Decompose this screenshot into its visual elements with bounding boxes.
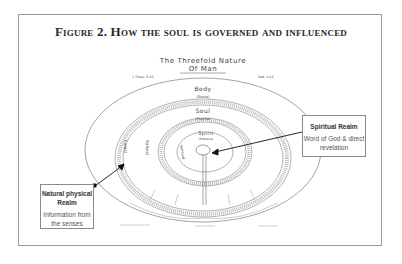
body-label: Body bbox=[194, 85, 211, 93]
carnal-label: Carnal bbox=[123, 140, 128, 153]
center-core bbox=[196, 145, 210, 155]
diagram-title-line2: Of Man bbox=[189, 65, 218, 73]
natural-realm-title: Natural physical Realm bbox=[41, 189, 93, 207]
natural-realm-text: Information from the senses bbox=[41, 210, 93, 228]
arrowhead-icon bbox=[212, 149, 218, 155]
spirit-sub-label: (Pneuma) bbox=[199, 137, 214, 141]
spirit-label: Spirit bbox=[198, 130, 214, 137]
spiritual-realm-title: Spiritual Realm bbox=[303, 122, 365, 131]
spiritual-arrow bbox=[215, 132, 302, 152]
ref-left: 1 Thess. 5:23 bbox=[132, 75, 153, 79]
natural-label: Natural bbox=[145, 140, 150, 155]
spiritual-realm-callout: Spiritual Realm Word of God & direct rev… bbox=[302, 115, 366, 157]
natural-arrow bbox=[95, 166, 122, 186]
spiritual-label: Spiritual bbox=[179, 144, 185, 159]
spiritual-realm-text: Word of God & direct revelation bbox=[303, 134, 365, 152]
natural-realm-callout: Natural physical Realm Information from … bbox=[40, 184, 94, 229]
soul-label: Soul bbox=[196, 107, 211, 114]
diagram-title-line1: The Threefold Nature bbox=[159, 57, 246, 65]
soul-sub-label: (Psyche) bbox=[196, 117, 212, 121]
ref-right: Heb. 4:12 bbox=[258, 75, 274, 79]
body-sub-label: (Soma) bbox=[197, 95, 210, 99]
